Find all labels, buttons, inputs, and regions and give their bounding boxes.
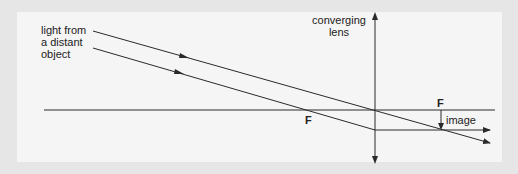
focal-point-right-label: F bbox=[437, 97, 444, 109]
lens-label: converging lens bbox=[308, 14, 370, 38]
light-source-label: light from a distant object bbox=[41, 24, 86, 60]
lens-bottom-arrow-icon bbox=[372, 156, 378, 164]
lens-top-arrow-icon bbox=[372, 12, 378, 20]
lens-label-line2: lens bbox=[308, 26, 370, 38]
light-label-line3: object bbox=[41, 48, 86, 60]
upper-ray bbox=[93, 31, 490, 143]
light-label-line2: a distant bbox=[41, 36, 86, 48]
upper-ray-arrow-icon bbox=[179, 53, 189, 58]
lens-label-line1: converging bbox=[308, 14, 370, 26]
lower-ray-arrow-icon bbox=[174, 69, 184, 74]
lower-ray bbox=[93, 48, 490, 130]
focal-point-left-label: F bbox=[305, 114, 312, 126]
light-label-line1: light from bbox=[41, 24, 86, 36]
image-label: image bbox=[446, 114, 476, 126]
